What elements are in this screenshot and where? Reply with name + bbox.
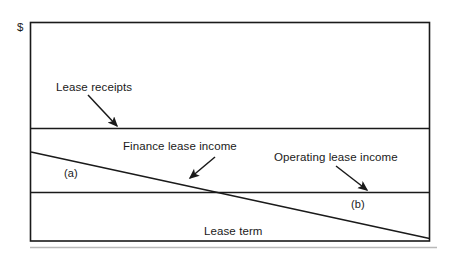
plot-frame (31, 23, 430, 242)
annotation-operating-lease-income: Operating lease income (274, 151, 398, 163)
lease-income-diagram (0, 0, 460, 259)
annotation-lease-receipts: Lease receipts (56, 81, 132, 93)
y-axis-label: $ (17, 21, 24, 33)
curve-label-b: (b) (351, 198, 365, 210)
annotation-finance-lease-income: Finance lease income (123, 140, 237, 152)
x-axis-label: Lease term (204, 225, 263, 237)
curve-label-a: (a) (64, 167, 78, 179)
